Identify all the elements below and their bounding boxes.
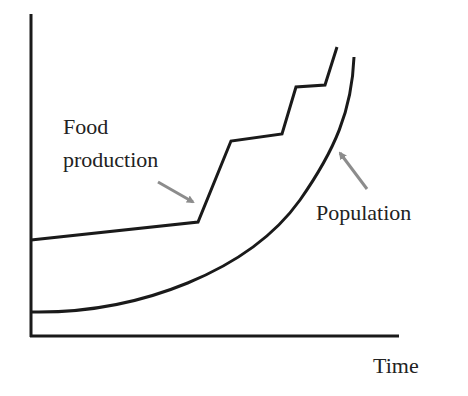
- population-label: Population: [316, 200, 411, 225]
- food-production-label-line2: production: [63, 147, 158, 172]
- population-curve: [31, 57, 354, 312]
- population-arrow-icon: [340, 153, 367, 189]
- food-production-label-line1: Food: [63, 114, 108, 139]
- food-population-diagram: Food production Population Time: [0, 0, 468, 396]
- food-production-arrow-icon: [158, 182, 193, 202]
- x-axis-label-time: Time: [373, 353, 419, 378]
